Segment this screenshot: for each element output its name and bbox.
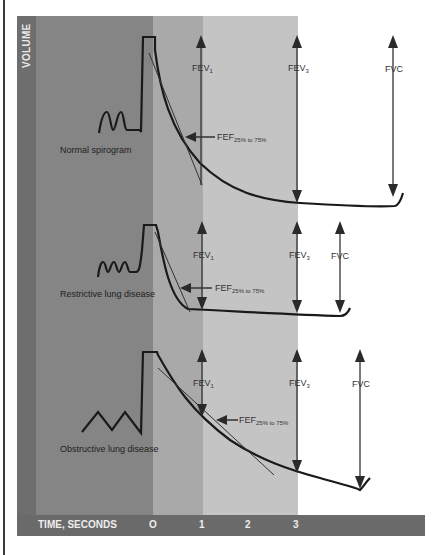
obstructive-fef-arrow	[216, 415, 238, 425]
obstructive-fev3-label: FEV3	[289, 378, 310, 389]
restrictive-fvc-label: FVC	[331, 251, 349, 261]
normal-spirogram-caption: Normal spirogram	[60, 145, 132, 155]
restrictive-fev1-label: FEV1	[193, 250, 214, 261]
obstructive-fvc-arrow	[355, 349, 365, 489]
normal-fev3-label: FEV3	[288, 63, 309, 74]
obstructive-fev3-arrow	[292, 349, 302, 473]
restrictive-lung-disease-caption: Restrictive lung disease	[60, 289, 155, 299]
obstructive-fef-label: FEF25% to 75%	[239, 415, 288, 426]
normal-fef-arrow	[185, 132, 215, 142]
normal-fvc-arrow	[388, 35, 398, 197]
normal-spirogram-curve	[99, 37, 403, 206]
normal-fev1-arrow	[196, 35, 206, 185]
restrictive-fef-label: FEF25% to 75%	[215, 283, 264, 294]
normal-fev3-arrow	[292, 35, 302, 203]
restrictive-fev3-label: FEV3	[289, 250, 310, 261]
normal-fef-label: FEF25% to 75%	[217, 132, 266, 143]
restrictive-fef-arrow	[180, 283, 212, 293]
obstructive-fev1-label: FEV1	[193, 378, 214, 389]
obstructive-fvc-label: FVC	[352, 379, 370, 389]
normal-fev1-label: FEV1	[192, 63, 213, 74]
spirogram-drawing	[0, 0, 434, 555]
restrictive-fev1-arrow	[197, 221, 207, 310]
restrictive-fvc-arrow	[335, 221, 345, 313]
normal-fvc-label: FVC	[385, 64, 403, 74]
restrictive-fev3-arrow	[292, 221, 302, 313]
restrictive-spirogram-curve	[98, 225, 350, 316]
obstructive-lung-disease-caption: Obstructive lung disease	[60, 444, 159, 454]
